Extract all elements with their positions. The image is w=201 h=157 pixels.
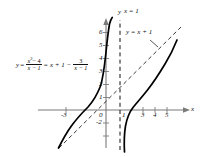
equation-equals-1: = [19,61,25,69]
rational-function-figure: y x -3 0 1 3 4 5 -2 1 2 3 4 5 6 x = 1 y … [0,0,201,157]
equation-fraction-1: x2− 4 x − 1 [26,58,41,71]
xtick-label--3: -3 [61,112,67,119]
xtick-label-3: 3 [141,112,145,119]
plot-canvas [0,0,201,157]
fraction-1-denominator: x − 1 [26,64,41,71]
xtick-label-4: 4 [153,112,157,119]
slant-asymptote-line [59,27,181,148]
slant-asymptote-label: y = x + 1 [126,29,152,36]
x-axis-label: x [191,106,194,113]
xtick-label-5: 5 [165,112,169,119]
equation-middle-term: x + 1 − [49,61,72,69]
ytick-label-3: 3 [99,68,103,75]
ytick-label-6: 6 [99,29,103,36]
curve-left-branch [59,18,113,149]
equation-fraction-2: 3 x − 1 [73,58,88,71]
vertical-asymptote-label: x = 1 [124,8,139,15]
y-axis-label: y [118,9,121,16]
fraction-2-denominator: x − 1 [73,64,88,71]
xtick-label-1: 1 [122,112,126,119]
ytick-label-2: 2 [99,81,103,88]
ytick-label-1: 1 [99,94,103,101]
slant-asymptote-leader [150,40,158,47]
function-equation: y = x2− 4 x − 1 = x + 1 − 3 x − 1 [16,58,89,71]
ytick-label-4: 4 [99,55,103,62]
fraction-1-num-rest: − 4 [32,57,40,64]
ytick-label--2: -2 [96,119,102,126]
ytick-label-5: 5 [99,42,103,49]
